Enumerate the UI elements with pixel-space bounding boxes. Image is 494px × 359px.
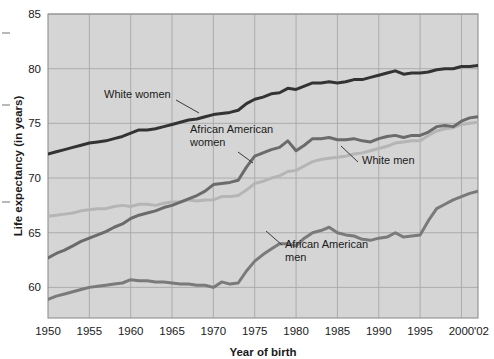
x-tick-label: 1975 xyxy=(242,325,268,337)
x-tick-label: 2000 xyxy=(449,325,475,337)
page-edge-mark-3 xyxy=(2,201,10,203)
series-label-african-american-men: men xyxy=(285,251,306,263)
x-tick-label: 1990 xyxy=(366,325,392,337)
series-label-african-american-women: African American xyxy=(190,123,273,135)
x-tick-label: 1955 xyxy=(77,325,103,337)
x-tick-label: 1960 xyxy=(118,325,144,337)
series-label-african-american-men: African American xyxy=(285,238,368,250)
x-tick-label: '02 xyxy=(474,325,489,337)
x-tick-label: 1995 xyxy=(407,325,433,337)
plot-background xyxy=(48,14,478,318)
y-tick-label: 60 xyxy=(28,281,41,293)
page-edge-mark-2 xyxy=(2,104,10,106)
x-tick-label: 1985 xyxy=(325,325,351,337)
series-label-white-men: White men xyxy=(362,154,415,166)
x-tick-label: 1980 xyxy=(283,325,309,337)
x-tick-label: 1970 xyxy=(201,325,227,337)
y-tick-label: 75 xyxy=(28,117,41,129)
x-tick-label: 1950 xyxy=(35,325,61,337)
line-chart: 6065707580851950195519601965197019751980… xyxy=(0,0,494,359)
series-label-white-women: White women xyxy=(104,88,171,100)
y-tick-label: 65 xyxy=(28,227,41,239)
y-tick-label: 80 xyxy=(28,63,41,75)
x-axis-title: Year of birth xyxy=(229,346,296,358)
y-tick-label: 85 xyxy=(28,8,41,20)
y-axis-title: Life expectancy (in years) xyxy=(12,96,24,237)
y-tick-label: 70 xyxy=(28,172,41,184)
x-tick-label: 1965 xyxy=(159,325,185,337)
life-expectancy-chart-figure: 6065707580851950195519601965197019751980… xyxy=(0,0,494,359)
series-label-african-american-women: women xyxy=(189,136,225,148)
page-edge-mark-1 xyxy=(2,32,10,34)
